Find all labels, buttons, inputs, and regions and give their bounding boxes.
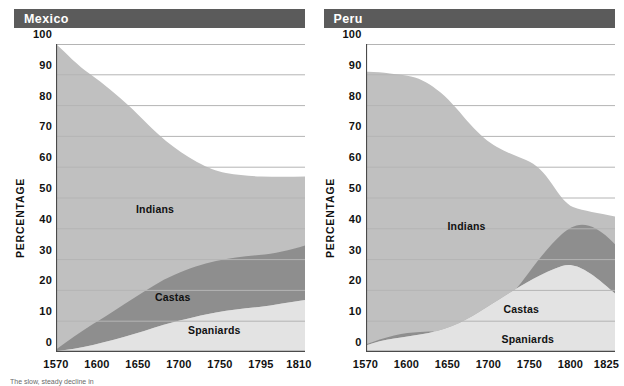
ytick-peru-50: 50 [326,182,362,194]
panel-peru: Peru PERCENTAGE 100 90 80 70 60 50 40 30… [310,0,620,384]
xtick-mexico-3: 1700 [159,358,199,370]
ytick-mexico-90: 90 [16,59,52,71]
ytick-mexico-10: 10 [16,305,52,317]
ytick-peru-60: 60 [326,151,362,163]
xtick-mexico-4: 1750 [200,358,240,370]
ytick-mexico-40: 40 [16,213,52,225]
panel-title-peru: Peru [324,12,363,26]
chart-svg-peru [366,44,615,352]
panel-title-bar-mexico: Mexico [14,9,305,28]
band-label-indians-mexico: Indians [136,203,174,215]
ytick-mexico-30: 30 [16,244,52,256]
xtick-mexico-2: 1650 [118,358,158,370]
panel-title-bar-peru: Peru [324,9,615,28]
ytick-peru-90: 90 [326,59,362,71]
xtick-peru-0: 1570 [346,358,386,370]
ytick-peru-100: 100 [326,28,362,40]
ytick-peru-80: 80 [326,90,362,102]
panel-title-mexico: Mexico [14,12,69,26]
figure-caption: The slow, steady decline in [10,378,310,386]
panel-mexico: Mexico PERCENTAGE 100 90 80 70 60 50 40 … [0,0,310,384]
ytick-mexico-0: 0 [16,336,52,348]
xtick-peru-3: 1700 [469,358,509,370]
xtick-mexico-5: 1795 [241,358,281,370]
xtick-peru-4: 1750 [510,358,550,370]
ytick-peru-30: 30 [326,244,362,256]
xtick-peru-2: 1650 [428,358,468,370]
ytick-peru-70: 70 [326,120,362,132]
ytick-mexico-100: 100 [16,28,52,40]
band-label-indians-peru: Indians [448,220,486,232]
ytick-mexico-50: 50 [16,182,52,194]
band-label-castas-mexico: Castas [155,291,191,303]
plot-area-peru [366,44,615,352]
ytick-mexico-70: 70 [16,120,52,132]
ytick-peru-40: 40 [326,213,362,225]
ytick-mexico-20: 20 [16,274,52,286]
ytick-mexico-60: 60 [16,151,52,163]
xtick-peru-1: 1600 [387,358,427,370]
ytick-mexico-80: 80 [16,90,52,102]
plot-area-mexico [56,44,305,352]
xtick-peru-6: 1825 [587,358,624,370]
chart-svg-mexico [56,44,305,352]
xtick-mexico-0: 1570 [36,358,76,370]
ytick-peru-20: 20 [326,274,362,286]
ytick-peru-10: 10 [326,305,362,317]
ytick-peru-0: 0 [326,336,362,348]
band-label-spaniards-peru: Spaniards [502,333,555,345]
band-label-castas-peru: Castas [504,303,540,315]
band-label-spaniards-mexico: Spaniards [188,324,241,336]
xtick-mexico-1: 1600 [77,358,117,370]
xtick-peru-5: 1800 [551,358,591,370]
